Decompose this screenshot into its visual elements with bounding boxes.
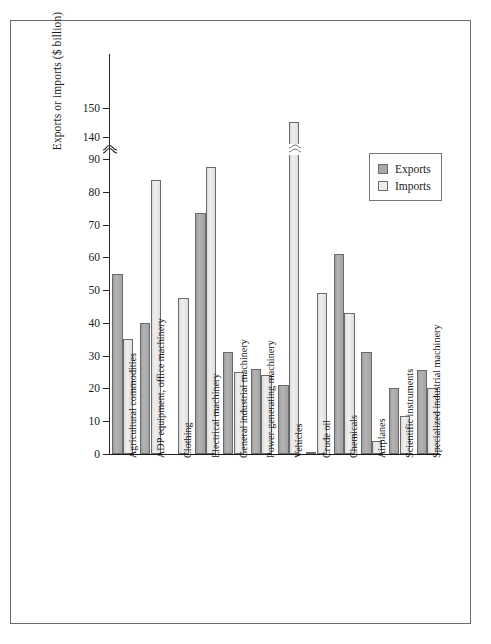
bar-exports	[361, 352, 371, 454]
y-tick-mark	[103, 108, 109, 109]
y-tick-mark	[103, 225, 109, 226]
category-label: Chemicals	[348, 415, 359, 458]
legend-item-imports: Imports	[378, 177, 431, 194]
bar-exports	[223, 352, 233, 454]
figure-frame: Exports or imports ($ billion) 010203040…	[10, 20, 471, 624]
category-label: Agricultural commodities	[127, 353, 138, 458]
y-tick-mark	[103, 192, 109, 193]
category-label: Vehicles	[293, 423, 304, 458]
bar-exports	[306, 452, 316, 454]
bar-exports	[112, 274, 122, 454]
category-label: Clothing	[182, 422, 193, 458]
y-tick-label: 140	[83, 131, 100, 143]
legend-item-exports: Exports	[378, 160, 431, 177]
y-tick-label: 80	[89, 186, 101, 198]
category-label: ADP equipment, office machinery	[155, 318, 166, 458]
category-label: Airplanes	[376, 418, 387, 458]
chart-legend: ExportsImports	[369, 153, 442, 201]
bar-break-icon	[289, 141, 299, 152]
bar-exports	[251, 369, 261, 454]
y-tick-mark	[103, 159, 109, 160]
category-label: Power-generating machinery	[265, 340, 276, 458]
bar-exports	[389, 388, 399, 454]
imports-swatch	[378, 181, 388, 191]
bar-exports	[334, 254, 344, 454]
y-tick-label: 40	[89, 317, 101, 329]
y-tick-mark	[103, 323, 109, 324]
y-tick-label: 150	[83, 102, 100, 114]
y-tick-label: 70	[89, 219, 101, 231]
bar-exports	[195, 213, 205, 454]
plot-area: 0102030405060708090140150 Agricultural c…	[109, 54, 441, 454]
bar-exports	[140, 323, 150, 454]
y-tick-mark	[103, 290, 109, 291]
y-tick-mark	[103, 137, 109, 138]
y-tick-label: 90	[89, 153, 101, 165]
y-tick-label: 10	[89, 415, 101, 427]
bar-imports	[289, 122, 299, 454]
y-tick-mark	[103, 421, 109, 422]
y-tick-label: 20	[89, 382, 101, 394]
bar-exports	[417, 370, 427, 454]
y-tick-label: 50	[89, 284, 101, 296]
y-axis-line	[109, 54, 110, 454]
category-label: General industrial machinery	[238, 339, 249, 458]
category-label: Specialized industrial machinery	[431, 324, 442, 458]
y-axis-break-icon	[102, 141, 118, 155]
category-label: Crude oil	[321, 420, 332, 458]
legend-label: Imports	[395, 180, 431, 192]
y-tick-label: 0	[94, 448, 100, 460]
bar-exports	[278, 385, 288, 454]
y-tick-label: 30	[89, 350, 101, 362]
y-axis-title: Exports or imports ($ billion)	[51, 0, 69, 191]
y-tick-mark	[103, 356, 109, 357]
y-tick-mark	[103, 454, 109, 455]
category-label: Electrical machinery	[210, 373, 221, 458]
legend-label: Exports	[395, 163, 431, 175]
y-tick-label: 60	[89, 251, 101, 263]
category-label: Scientific instruments	[404, 369, 415, 458]
exports-swatch	[378, 164, 388, 174]
y-tick-mark	[103, 388, 109, 389]
y-tick-mark	[103, 257, 109, 258]
